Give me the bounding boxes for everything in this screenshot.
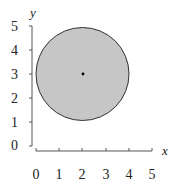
x-tick-label: 5 bbox=[149, 167, 156, 182]
x-axis-label: x bbox=[161, 143, 168, 158]
y-tick-label: 5 bbox=[11, 19, 18, 34]
y-tick-label: 2 bbox=[11, 91, 18, 106]
y-tick-label: 0 bbox=[11, 138, 18, 153]
x-tick-label: 4 bbox=[126, 167, 133, 182]
x-tick-label: 0 bbox=[33, 167, 40, 182]
y-tick-label: 3 bbox=[11, 67, 18, 82]
y-axis-label: y bbox=[28, 5, 36, 20]
x-tick-label: 3 bbox=[103, 167, 110, 182]
center-point bbox=[82, 73, 85, 76]
x-tick-label: 2 bbox=[79, 167, 86, 182]
y-tick-label: 4 bbox=[11, 43, 18, 58]
chart: 5 4 3 2 1 0 0 1 2 3 4 5 y x bbox=[0, 0, 177, 188]
x-tick-label: 1 bbox=[56, 167, 63, 182]
y-tick-label: 1 bbox=[11, 115, 18, 130]
